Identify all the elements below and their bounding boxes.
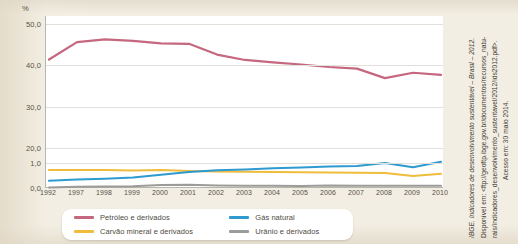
x-axis-tick-label: 2004 xyxy=(264,189,280,196)
x-axis-tick-label: 1998 xyxy=(96,189,112,196)
legend-swatch xyxy=(74,216,94,219)
y-axis-unit-label: % xyxy=(22,4,29,13)
source-line-4: Acesso em: 30 maio 2014. xyxy=(502,101,509,180)
x-axis-tick-label: 2010 xyxy=(432,189,448,196)
legend-swatch xyxy=(229,216,249,219)
gridline xyxy=(46,24,443,25)
x-axis-tick-label: 2000 xyxy=(152,189,168,196)
y-axis-tick-label: 50,0 xyxy=(26,20,41,29)
x-axis-tick-label: 1992 xyxy=(40,189,56,196)
legend-column-right: Gás naturalUrânio e derivados xyxy=(229,212,343,237)
y-axis-tick-label: 30,0 xyxy=(26,102,41,111)
plot-area xyxy=(45,16,443,188)
series-line xyxy=(49,170,441,176)
legend-item: Urânio e derivados xyxy=(229,226,343,237)
source-citation: IBGE. Indicadores de desenvolvimento sus… xyxy=(447,0,518,244)
x-axis-tick-label: 2002 xyxy=(208,189,224,196)
legend-label: Petróleo e derivados xyxy=(100,213,170,222)
x-axis-labels: 1992199719981999200020012002200320042005… xyxy=(45,189,443,203)
y-axis-labels: 50,040,030,020,01,00,0 xyxy=(0,16,41,188)
source-line-1: IBGE. Indicadores de desenvolvimento sus… xyxy=(468,38,475,238)
legend-item: Petróleo e derivados xyxy=(74,212,229,223)
chart-figure: % 50,040,030,020,01,00,0 199219971998199… xyxy=(0,0,518,244)
legend-swatch xyxy=(229,230,249,233)
gridline xyxy=(46,107,443,108)
y-axis-tick-label: 20,0 xyxy=(26,144,41,153)
x-axis-tick-label: 2001 xyxy=(180,189,196,196)
chart-legend: Petróleo e derivadosCarvão mineral e der… xyxy=(62,209,353,240)
x-axis-tick-label: 2009 xyxy=(404,189,420,196)
x-axis-tick-label: 1997 xyxy=(68,189,84,196)
series-line xyxy=(49,39,441,78)
x-axis-tick-label: 2007 xyxy=(348,189,364,196)
legend-label: Carvão mineral e derivados xyxy=(100,227,193,236)
x-axis-tick-label: 2008 xyxy=(376,189,392,196)
x-axis-tick-label: 2005 xyxy=(292,189,308,196)
x-axis-tick-label: 2006 xyxy=(320,189,336,196)
legend-item: Carvão mineral e derivados xyxy=(74,226,229,237)
legend-label: Urânio e derivados xyxy=(255,227,319,236)
gridline xyxy=(46,163,443,164)
legend-label: Gás natural xyxy=(255,213,294,222)
x-axis-tick-label: 1999 xyxy=(124,189,140,196)
plot-area-wrapper xyxy=(45,16,443,188)
gridline xyxy=(46,65,443,66)
legend-column-left: Petróleo e derivadosCarvão mineral e der… xyxy=(74,212,229,237)
y-axis-tick-label: 40,0 xyxy=(26,61,41,70)
x-axis-tick-label: 2003 xyxy=(236,189,252,196)
legend-item: Gás natural xyxy=(229,212,343,223)
source-line-2: Disponível em: <ftp://geoftp.ibge.gov.br… xyxy=(480,37,487,238)
legend-swatch xyxy=(74,230,94,233)
gridline xyxy=(46,148,443,149)
source-line-3: rais/indicadores_desenvolvimento_sustent… xyxy=(491,40,498,238)
series-line xyxy=(49,185,441,188)
y-axis-tick-label: 1,0 xyxy=(30,159,41,168)
